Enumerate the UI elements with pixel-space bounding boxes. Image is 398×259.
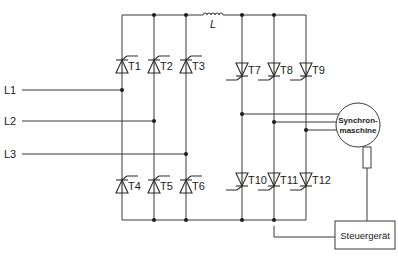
thyristor-t8-icon [258, 62, 281, 80]
junction-dot [120, 88, 124, 92]
junction-dot [152, 13, 156, 17]
inductor-coil-icon [203, 13, 223, 15]
thyristor-t9-icon [290, 62, 313, 80]
thyristor-label: T12 [312, 174, 331, 186]
thyristor-t7-icon [226, 62, 249, 80]
thyristor-t10-icon [226, 172, 249, 190]
junction-dot [184, 218, 188, 222]
position-sensor-icon [363, 147, 371, 168]
junction-dot [152, 119, 156, 123]
input-label-l2: L2 [4, 115, 16, 127]
junction-dot [184, 13, 188, 17]
input-label-l1: L1 [4, 84, 16, 96]
junction-dot [240, 13, 244, 17]
thyristor-label: T1 [128, 60, 141, 72]
junction-dot [184, 152, 188, 156]
gate-control-line [274, 226, 335, 237]
thyristor-label: T9 [312, 64, 325, 76]
synchronous-machine-icon [336, 103, 380, 147]
thyristor-label: T7 [248, 64, 261, 76]
thyristor-label: T4 [128, 180, 141, 192]
thyristor-label: T8 [280, 64, 293, 76]
junction-dot [240, 218, 244, 222]
input-label-l3: L3 [4, 148, 16, 160]
junction-dot [152, 218, 156, 222]
thyristor-label: T5 [160, 180, 173, 192]
junction-dot [272, 218, 276, 222]
converter-circuit-diagram: LL1L2L3T1T2T3T4T5T6T7T8T9T10T11T12Synchr… [0, 0, 398, 259]
motor-label-line1: Synchron- [338, 116, 378, 125]
inductor-label: L [210, 18, 216, 30]
thyristor-label: T11 [280, 174, 298, 186]
junction-dot [272, 13, 276, 17]
junction-dot [304, 128, 308, 132]
thyristor-label: T10 [248, 174, 267, 186]
motor-label-line2: maschine [340, 126, 377, 135]
thyristor-label: T2 [160, 60, 173, 72]
junction-dot [272, 120, 276, 124]
thyristor-label: T3 [192, 60, 205, 72]
thyristor-label: T6 [192, 180, 205, 192]
junction-dot [240, 112, 244, 116]
controller-label: Steuergerät [340, 230, 390, 241]
circuit-svg: LL1L2L3T1T2T3T4T5T6T7T8T9T10T11T12Synchr… [0, 0, 398, 259]
